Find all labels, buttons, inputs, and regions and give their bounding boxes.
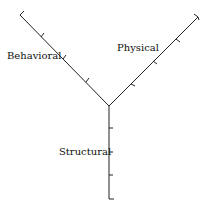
behavioral-tick-2 bbox=[63, 55, 66, 59]
behavioral-tick-3 bbox=[86, 78, 89, 82]
physical-label: Physical bbox=[117, 43, 159, 53]
physical-tick-2 bbox=[153, 61, 157, 64]
y-chart-diagram bbox=[0, 0, 213, 210]
behavioral-end-cap bbox=[20, 11, 24, 16]
behavioral-tick-1 bbox=[41, 33, 44, 37]
structural-label: Structural bbox=[59, 147, 111, 157]
behavioral-label: Behavioral bbox=[7, 51, 61, 61]
physical-tick-3 bbox=[176, 39, 180, 42]
physical-tick-1 bbox=[131, 84, 135, 86]
